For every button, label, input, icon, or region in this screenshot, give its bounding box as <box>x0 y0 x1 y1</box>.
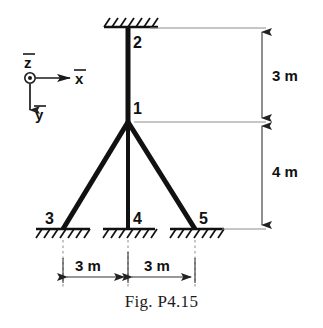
figure-container: 1 2 3 4 5 3 m 4 m 3 m 3 m z x y Fig. P4.… <box>0 0 323 328</box>
frame-diagram: 1 2 3 4 5 3 m 4 m 3 m 3 m z x y <box>0 0 323 328</box>
dimension-label-horizontal-right-3m: 3 m <box>144 257 170 274</box>
x-axis-label: x <box>75 70 84 87</box>
support-5 <box>170 229 224 238</box>
z-axis-label: z <box>24 54 32 71</box>
support-4-hatching <box>103 229 157 238</box>
support-3 <box>36 229 90 238</box>
z-axis-out-of-page-icon <box>25 73 35 83</box>
node-label-4: 4 <box>133 210 142 227</box>
support-2-hatching <box>104 18 158 27</box>
node-label-1: 1 <box>133 100 142 117</box>
support-5-hatching <box>170 229 224 238</box>
node-label-5: 5 <box>199 210 208 227</box>
dimension-label-horizontal-left-3m: 3 m <box>75 257 101 274</box>
dimension-label-vertical-3m: 3 m <box>272 67 298 84</box>
support-3-hatching <box>36 229 90 238</box>
extension-lines <box>63 28 266 288</box>
y-axis-label: y <box>35 106 44 123</box>
node-label-3: 3 <box>45 210 54 227</box>
member-brace-left <box>63 122 128 229</box>
support-4 <box>103 229 157 238</box>
dimension-label-vertical-4m: 4 m <box>272 163 298 180</box>
node-label-2: 2 <box>133 34 142 51</box>
frame-members <box>63 27 195 229</box>
support-2 <box>104 18 158 27</box>
figure-caption: Fig. P4.15 <box>0 292 323 312</box>
